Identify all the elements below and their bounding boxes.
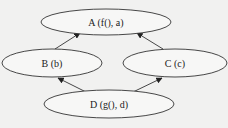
node-d-label: D (g(), d) bbox=[90, 99, 128, 111]
node-b[interactable]: B (b) bbox=[2, 49, 102, 77]
node-b-label: B (b) bbox=[42, 58, 63, 70]
node-c[interactable]: C (c) bbox=[123, 49, 227, 77]
node-a-label: A (f(), a) bbox=[88, 17, 123, 29]
graph-canvas: A (f(), a) B (b) C (c) D (g(), d) bbox=[0, 0, 228, 128]
node-c-label: C (c) bbox=[165, 58, 185, 70]
edge-b-to-a bbox=[55, 33, 80, 49]
node-a[interactable]: A (f(), a) bbox=[41, 9, 171, 35]
nodes-layer: A (f(), a) B (b) C (c) D (g(), d) bbox=[2, 9, 227, 118]
edge-d-to-c bbox=[133, 78, 162, 92]
edge-c-to-a bbox=[137, 33, 163, 49]
node-d[interactable]: D (g(), d) bbox=[44, 90, 174, 118]
edge-d-to-b bbox=[58, 78, 86, 92]
